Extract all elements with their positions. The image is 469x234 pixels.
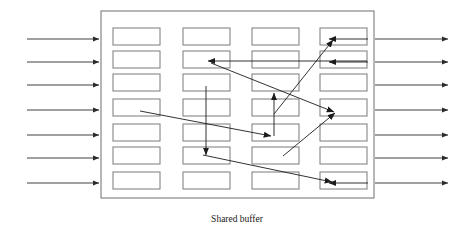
shared-buffer-diagram: Shared buffer xyxy=(0,0,469,234)
buffer-slot xyxy=(252,172,299,189)
buffer-slot xyxy=(183,74,230,91)
buffer-slot xyxy=(113,172,160,189)
buffer-slot xyxy=(252,124,299,141)
input-stream-arrows xyxy=(27,39,99,183)
buffer-slot xyxy=(252,147,299,164)
buffer-slot xyxy=(320,99,367,116)
figure-caption: Shared buffer xyxy=(211,214,264,224)
buffer-slot xyxy=(113,51,160,68)
buffer-slot xyxy=(252,28,299,45)
buffer-slot xyxy=(183,51,230,68)
buffer-slot xyxy=(320,124,367,141)
output-stream-arrows xyxy=(375,39,448,183)
buffer-slot xyxy=(113,74,160,91)
buffer-slot xyxy=(183,99,230,116)
buffer-slot xyxy=(320,172,367,189)
buffer-slot xyxy=(113,124,160,141)
buffer-slot xyxy=(113,28,160,45)
buffer-slot xyxy=(252,51,299,68)
buffer-slot xyxy=(113,147,160,164)
buffer-slot xyxy=(320,147,367,164)
buffer-slot xyxy=(320,51,367,68)
buffer-slot xyxy=(320,74,367,91)
buffer-slot xyxy=(252,99,299,116)
buffer-slot xyxy=(183,28,230,45)
diagram-canvas: Shared buffer xyxy=(0,0,469,234)
buffer-slot xyxy=(320,28,367,45)
buffer-slot xyxy=(183,172,230,189)
